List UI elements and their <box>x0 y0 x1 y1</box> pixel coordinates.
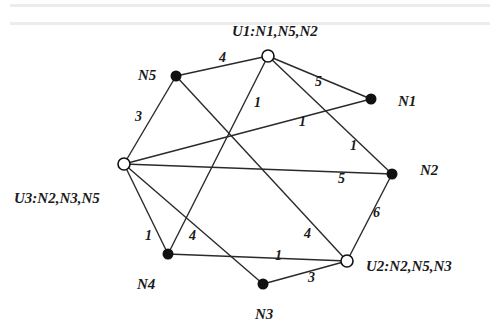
edge-weight-label: 1 <box>145 228 152 243</box>
open-node-u1 <box>262 50 274 62</box>
filled-node-n1 <box>366 94 377 105</box>
node-label-n5: N5 <box>137 67 157 83</box>
node-label-n3: N3 <box>254 306 274 322</box>
edge-weight-label: 1 <box>350 138 357 153</box>
filled-node-n2 <box>387 169 398 180</box>
node-label-u2: U2:N2,N5,N3 <box>366 258 452 274</box>
edge-weight-label: 4 <box>188 228 196 243</box>
edge-weight-label: 4 <box>303 226 311 241</box>
node-label-n2: N2 <box>419 162 439 178</box>
node-labels: U1:N1,N5,N2N5N1N2U3:N2,N3,N5N4N3U2:N2,N5… <box>14 23 452 322</box>
filled-node-n4 <box>163 249 174 260</box>
network-graph: 4511341514136 U1:N1,N5,N2N5N1N2U3:N2,N3,… <box>0 0 494 333</box>
edge-weight-label: 3 <box>134 109 142 124</box>
edge-n3-u2 <box>263 261 347 284</box>
graph-edges <box>124 56 392 284</box>
edge-u1-n4 <box>168 56 268 254</box>
open-node-u3 <box>118 158 130 170</box>
edge-u3-n3 <box>124 164 263 284</box>
node-label-n1: N1 <box>397 93 416 109</box>
edge-weight-label: 4 <box>218 50 226 65</box>
edge-weight-label: 1 <box>254 95 261 110</box>
edge-weight-label: 6 <box>373 205 380 220</box>
node-label-u3: U3:N2,N3,N5 <box>14 190 100 206</box>
edge-weight-label: 5 <box>315 74 322 89</box>
edge-weight-label: 3 <box>307 270 315 285</box>
edge-n4-u2 <box>168 254 347 261</box>
edge-weight-label: 1 <box>275 248 282 263</box>
node-label-n4: N4 <box>136 276 156 292</box>
graph-nodes <box>118 50 398 290</box>
edge-n5-u3 <box>124 76 176 164</box>
node-label-u1: U1:N1,N5,N2 <box>232 23 318 39</box>
edge-u1-n2 <box>268 56 392 174</box>
filled-node-n5 <box>171 71 182 82</box>
filled-node-n3 <box>258 279 269 290</box>
open-node-u2 <box>341 255 353 267</box>
edge-n2-u2 <box>347 174 392 261</box>
edge-weight-label: 5 <box>338 171 345 186</box>
edge-weight-label: 1 <box>299 114 306 129</box>
